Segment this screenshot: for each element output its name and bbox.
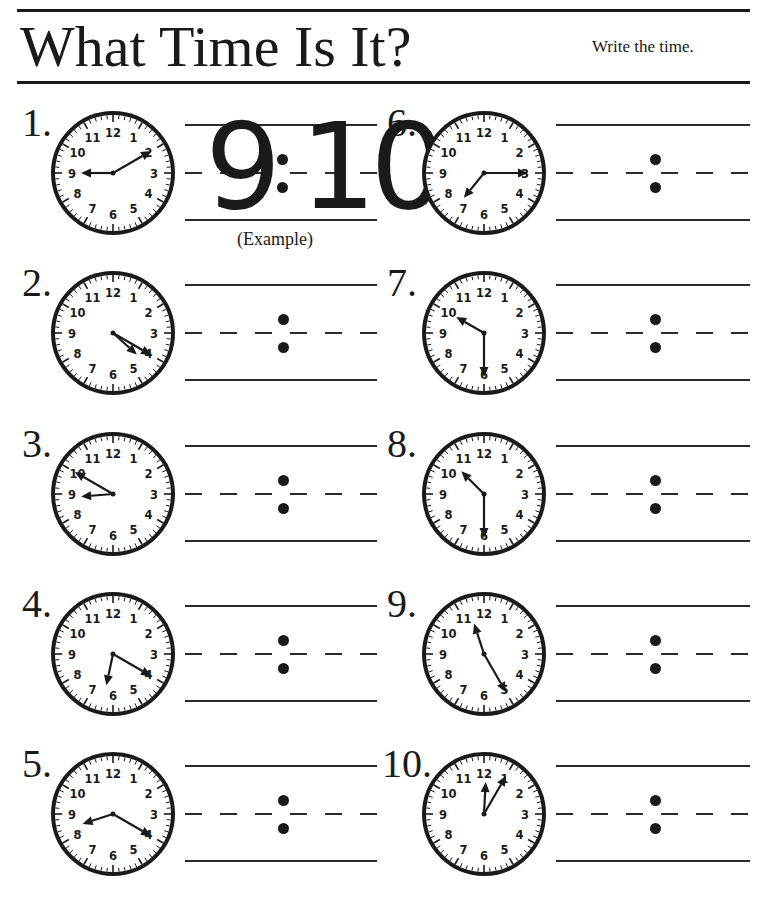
colon-dot-bottom <box>650 663 661 674</box>
clock-numeral: 3 <box>521 327 529 341</box>
clock-numeral: 5 <box>500 843 508 857</box>
colon-dot-top <box>650 475 661 486</box>
time-answer-field[interactable] <box>556 607 750 699</box>
colon-dot-bottom <box>650 182 661 193</box>
clock-numeral: 11 <box>84 772 100 786</box>
clock-numeral: 9 <box>439 167 447 181</box>
clock-numeral: 7 <box>459 683 467 697</box>
clock-numeral: 3 <box>150 327 158 341</box>
analog-clock-9: 121234567891011 <box>417 587 551 721</box>
clock-numeral: 9 <box>68 808 76 822</box>
clock-numeral: 2 <box>145 467 153 481</box>
time-answer-field[interactable] <box>185 286 377 378</box>
clock-numeral: 9 <box>439 327 447 341</box>
time-answer-field[interactable] <box>185 447 377 539</box>
clock-numeral: 7 <box>88 683 96 697</box>
clock-numeral: 6 <box>109 849 117 863</box>
exercise-number: 7. <box>387 263 417 303</box>
exercise-number: 9. <box>387 584 417 624</box>
clock-numeral: 7 <box>459 523 467 537</box>
clock-numeral: 2 <box>516 306 524 320</box>
colon-dot-bottom <box>277 182 288 193</box>
colon-dot-top <box>650 635 661 646</box>
analog-clock-3: 121234567891011 <box>46 427 180 561</box>
colon-dot-top <box>277 154 288 165</box>
time-answer-field[interactable] <box>556 286 750 378</box>
analog-clock-5: 121234567891011 <box>46 747 180 881</box>
clock-numeral: 2 <box>516 467 524 481</box>
clock-numeral: 5 <box>129 843 137 857</box>
clock-numeral: 10 <box>440 306 456 320</box>
clock-numeral: 2 <box>145 627 153 641</box>
clock-numeral: 11 <box>84 131 100 145</box>
clock-numeral: 3 <box>150 488 158 502</box>
top-rule <box>17 9 750 12</box>
colon-dot-bottom <box>278 663 289 674</box>
time-answer-field[interactable] <box>556 447 750 539</box>
clock-numeral: 8 <box>73 828 81 842</box>
clock-numeral: 12 <box>476 607 492 621</box>
clock-numeral: 5 <box>500 362 508 376</box>
colon-dot-top <box>278 635 289 646</box>
clock-numeral: 11 <box>84 612 100 626</box>
clock-numeral: 4 <box>516 187 524 201</box>
clock-numeral: 4 <box>145 508 153 522</box>
time-answer-field[interactable] <box>556 126 750 218</box>
colon-dot-bottom <box>650 823 661 834</box>
clock-numeral: 6 <box>109 529 117 543</box>
clock-numeral: 9 <box>439 808 447 822</box>
answer-bottom-line <box>185 540 377 542</box>
colon-dot-top <box>650 154 661 165</box>
clock-numeral: 4 <box>516 508 524 522</box>
analog-clock-2: 121234567891011 <box>46 266 180 400</box>
clock-numeral: 6 <box>109 368 117 382</box>
answer-bottom-line <box>556 700 750 702</box>
answer-bottom-line <box>556 219 750 221</box>
answer-bottom-line <box>556 540 750 542</box>
clock-numeral: 2 <box>516 787 524 801</box>
clock-numeral: 3 <box>150 167 158 181</box>
clock-numeral: 6 <box>480 208 488 222</box>
example-answer-hour: 9 <box>205 107 281 227</box>
clock-numeral: 2 <box>516 146 524 160</box>
clock-numeral: 4 <box>516 828 524 842</box>
clock-numeral: 10 <box>69 306 85 320</box>
clock-numeral: 8 <box>73 668 81 682</box>
clock-numeral: 1 <box>500 131 508 145</box>
clock-numeral: 11 <box>455 612 471 626</box>
clock-numeral: 10 <box>69 627 85 641</box>
clock-numeral: 9 <box>439 488 447 502</box>
colon-dot-top <box>650 314 661 325</box>
clock-numeral: 5 <box>129 683 137 697</box>
exercise-number: 8. <box>387 424 417 464</box>
clock-numeral: 7 <box>88 362 96 376</box>
time-answer-field[interactable] <box>185 607 377 699</box>
header-bottom-rule <box>17 81 750 84</box>
clock-numeral: 11 <box>84 291 100 305</box>
clock-numeral: 9 <box>68 327 76 341</box>
clock-numeral: 1 <box>129 131 137 145</box>
time-answer-field[interactable] <box>556 767 750 859</box>
clock-numeral: 10 <box>440 787 456 801</box>
clock-numeral: 8 <box>444 828 452 842</box>
clock-numeral: 5 <box>500 202 508 216</box>
clock-numeral: 5 <box>129 362 137 376</box>
clock-numeral: 9 <box>68 488 76 502</box>
clock-numeral: 4 <box>145 187 153 201</box>
clock-numeral: 7 <box>459 202 467 216</box>
clock-numeral: 8 <box>444 508 452 522</box>
clock-numeral: 9 <box>68 167 76 181</box>
colon-dot-bottom <box>278 342 289 353</box>
analog-clock-6: 121234567891011 <box>417 106 551 240</box>
clock-numeral: 7 <box>88 202 96 216</box>
clock-numeral: 12 <box>476 286 492 300</box>
clock-numeral: 12 <box>105 767 121 781</box>
clock-numeral: 7 <box>88 523 96 537</box>
clock-numeral: 8 <box>73 508 81 522</box>
colon-dot-bottom <box>650 503 661 514</box>
clock-numeral: 12 <box>476 767 492 781</box>
clock-numeral: 6 <box>109 208 117 222</box>
clock-numeral: 11 <box>455 291 471 305</box>
clock-numeral: 2 <box>516 627 524 641</box>
time-answer-field[interactable] <box>185 767 377 859</box>
